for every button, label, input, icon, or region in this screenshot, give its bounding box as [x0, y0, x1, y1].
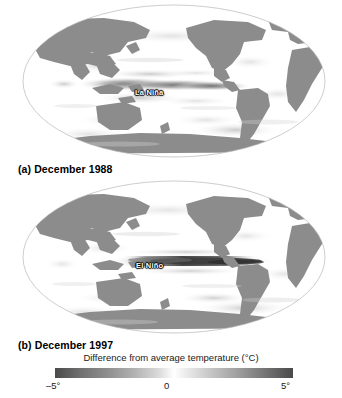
- world-map-1997: [0, 178, 342, 336]
- colorbar-tick-max: 5°: [281, 380, 290, 391]
- map-panel-december-1988: [0, 2, 342, 162]
- globe-b: [0, 178, 342, 336]
- legend-colorbar: Difference from average temperature (°C)…: [0, 352, 342, 398]
- colorbar-tick-min: –5°: [46, 380, 60, 391]
- colorbar-tick-mid: 0: [164, 380, 169, 391]
- map-annotation-el-nino: El Niño: [136, 261, 163, 270]
- legend-title: Difference from average temperature (°C): [0, 352, 342, 363]
- figure-sst-anomaly-maps: La Niña (a) December 1988: [0, 0, 342, 398]
- world-map-1988: [0, 2, 342, 160]
- map-annotation-la-nina: La Niña: [135, 88, 164, 97]
- panel-caption-a: (a) December 1988: [18, 163, 113, 175]
- colorbar-gradient: [55, 368, 293, 378]
- map-panel-december-1997: [0, 178, 342, 338]
- globe-a: [0, 2, 342, 160]
- panel-caption-b: (b) December 1997: [18, 339, 113, 351]
